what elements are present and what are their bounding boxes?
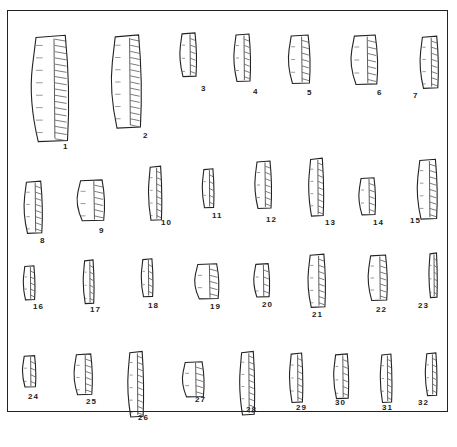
artifact-number-label: 13 xyxy=(325,218,336,227)
artifact-drawing xyxy=(21,355,37,388)
artifact-number-label: 27 xyxy=(195,395,206,404)
artifact-drawing xyxy=(232,33,252,83)
artifact-drawing xyxy=(178,32,198,78)
artifact-drawing xyxy=(418,35,440,90)
artifact-number-label: 6 xyxy=(377,88,382,97)
artifact-number-label: 2 xyxy=(143,131,148,140)
artifact-drawing xyxy=(428,252,438,299)
bleed-through-caption xyxy=(0,425,457,447)
artifact-drawing xyxy=(379,353,393,404)
artifact-number-label: 7 xyxy=(413,91,418,100)
artifact-number-label: 30 xyxy=(335,398,346,407)
artifact-drawing xyxy=(140,258,154,298)
artifact-drawing xyxy=(424,352,438,397)
artifact-drawing xyxy=(307,157,325,218)
artifact-number-label: 5 xyxy=(307,88,312,97)
artifact-number-label: 29 xyxy=(296,403,307,412)
artifact-number-label: 21 xyxy=(312,310,323,319)
artifact-number-label: 24 xyxy=(28,392,39,401)
artifact-drawing xyxy=(252,263,271,298)
artifact-drawing xyxy=(366,254,389,302)
artifact-number-label: 31 xyxy=(382,403,393,412)
artifact-number-label: 1 xyxy=(63,142,68,151)
artifact-drawing xyxy=(108,33,144,131)
artifact-drawing xyxy=(415,158,439,221)
artifact-number-label: 23 xyxy=(418,301,429,310)
artifact-number-label: 12 xyxy=(266,215,277,224)
artifact-drawing xyxy=(201,168,215,209)
artifact-number-label: 15 xyxy=(410,216,421,225)
artifact-drawing xyxy=(82,259,95,305)
artifact-number-label: 20 xyxy=(262,300,273,309)
artifact-drawing xyxy=(74,179,107,222)
artifact-number-label: 16 xyxy=(33,302,44,311)
artifact-drawing xyxy=(348,34,380,86)
artifact-drawing xyxy=(286,34,312,85)
artifact-number-label: 17 xyxy=(90,305,101,314)
artifact-number-label: 9 xyxy=(99,226,104,235)
artifact-number-label: 4 xyxy=(253,87,258,96)
artifact-number-label: 19 xyxy=(210,302,221,311)
artifact-number-label: 14 xyxy=(373,218,384,227)
artifact-drawing xyxy=(22,180,44,235)
artifact-drawing xyxy=(147,165,163,222)
artifact-drawing xyxy=(72,353,94,396)
artifact-number-label: 8 xyxy=(40,236,45,245)
artifact-number-label: 22 xyxy=(376,305,387,314)
artifact-drawing xyxy=(22,265,36,301)
artifact-number-label: 3 xyxy=(201,84,206,93)
artifact-drawing xyxy=(27,33,72,145)
artifact-number-label: 32 xyxy=(418,398,429,407)
artifact-drawing xyxy=(180,361,206,398)
artifact-drawing xyxy=(192,263,221,300)
artifact-drawing xyxy=(357,177,377,216)
artifact-drawing xyxy=(288,352,304,404)
artifact-number-label: 10 xyxy=(161,218,172,227)
artifact-number-label: 25 xyxy=(86,397,97,406)
artifact-number-label: 26 xyxy=(138,413,149,422)
artifact-number-label: 11 xyxy=(212,211,222,220)
artifact-drawing xyxy=(126,350,145,419)
artifact-number-label: 28 xyxy=(246,405,257,414)
artifact-drawing xyxy=(306,253,327,309)
artifact-drawing xyxy=(332,353,350,400)
artifact-number-label: 18 xyxy=(148,301,159,310)
artifact-drawing xyxy=(253,160,273,210)
